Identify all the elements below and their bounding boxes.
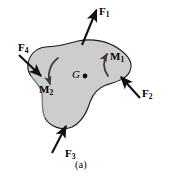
center-of-gravity-dot xyxy=(83,74,88,79)
moment-label-m2-subscript: 2 xyxy=(49,88,53,97)
force-label-f4-subscript: 4 xyxy=(25,46,29,55)
force-label-f4: F4 xyxy=(18,42,28,54)
figure-caption: (a) xyxy=(75,160,87,171)
center-of-gravity-label: G xyxy=(72,69,80,80)
force-label-f4-letter: F xyxy=(18,41,25,53)
moment-label-m1-subscript: 1 xyxy=(120,55,124,64)
moment-label-m1: M1 xyxy=(110,51,124,63)
moment-label-m2: M2 xyxy=(39,84,53,96)
force-arrow-f3 xyxy=(52,126,66,153)
force-label-f2-letter: F xyxy=(142,87,149,99)
force-label-f3-letter: F xyxy=(65,147,72,159)
moment-label-m1-letter: M xyxy=(110,50,120,62)
force-label-f1-subscript: 1 xyxy=(106,10,110,19)
moment-label-m2-letter: M xyxy=(39,83,49,95)
free-body-diagram-figure: F1 F4 F2 F3 M1 M2 G (a) xyxy=(0,0,172,179)
force-arrow-f2 xyxy=(121,77,140,98)
force-label-f2-subscript: 2 xyxy=(149,92,153,101)
force-label-f1: F1 xyxy=(99,6,109,18)
force-label-f3: F3 xyxy=(65,148,75,160)
force-label-f1-letter: F xyxy=(99,5,106,17)
force-label-f2: F2 xyxy=(142,88,152,100)
